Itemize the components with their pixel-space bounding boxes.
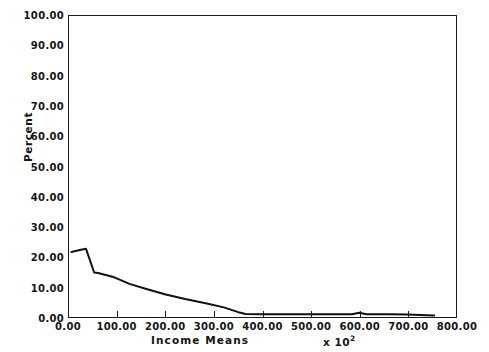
x-axis-title: Income Means: [151, 334, 249, 346]
y-axis-title: Percent: [22, 97, 34, 177]
y-tick-label: 20.00: [31, 252, 64, 263]
x-tick-mark: [165, 311, 166, 318]
x-tick-mark: [117, 311, 118, 318]
x-tick-label: 400.00: [242, 321, 282, 332]
y-tick-label: 60.00: [31, 131, 64, 142]
x-tick-mark: [214, 311, 215, 318]
x-tick-label: 100.00: [96, 321, 136, 332]
y-tick-label: 70.00: [31, 100, 64, 111]
y-tick-label: 30.00: [31, 222, 64, 233]
x-tick-mark: [263, 311, 264, 318]
y-tick-label: 10.00: [31, 282, 64, 293]
y-tick-label: 100.00: [24, 10, 64, 21]
x-axis-multiplier-annotation: x 102: [323, 334, 355, 348]
multiplier-exponent: 2: [350, 334, 355, 343]
y-tick-label: 50.00: [31, 161, 64, 172]
plot-svg: [69, 16, 456, 317]
x-tick-label: 600.00: [340, 321, 380, 332]
income-means-percent-chart: 0.0010.0020.0030.0040.0050.0060.0070.008…: [0, 0, 489, 352]
plot-area: [68, 15, 457, 318]
multiplier-base: x 10: [323, 336, 350, 348]
y-tick-label: 40.00: [31, 191, 64, 202]
y-tick-label: 80.00: [31, 70, 64, 81]
x-tick-label: 500.00: [291, 321, 331, 332]
x-tick-label: 800.00: [437, 321, 477, 332]
x-tick-mark: [311, 311, 312, 318]
x-tick-label: 200.00: [145, 321, 185, 332]
x-tick-label: 700.00: [388, 321, 428, 332]
x-tick-mark: [360, 311, 361, 318]
data-series-line: [71, 249, 434, 316]
x-tick-mark: [408, 311, 409, 318]
x-tick-label: 0.00: [55, 321, 81, 332]
y-tick-label: 90.00: [31, 40, 64, 51]
x-tick-label: 300.00: [194, 321, 234, 332]
